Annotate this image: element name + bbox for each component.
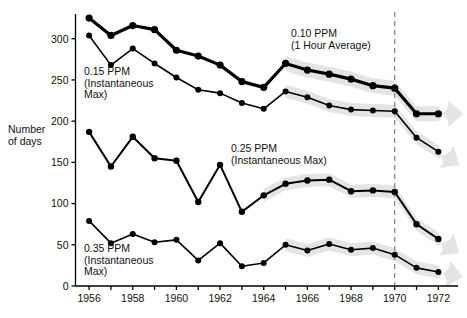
data-point xyxy=(195,257,201,263)
data-point xyxy=(282,181,288,187)
data-point xyxy=(195,199,201,205)
data-point xyxy=(107,32,114,39)
annotation-010ppm-line2: (1 Hour Average) xyxy=(291,39,371,51)
x-tick-label: 1962 xyxy=(208,292,232,304)
data-point xyxy=(414,135,420,141)
data-point xyxy=(413,221,419,227)
annotation-025ppm-line2: (Instantaneous Max) xyxy=(231,154,327,166)
data-point xyxy=(370,107,376,113)
y-axis-title-line2: of days xyxy=(8,135,42,147)
x-tick-label: 1970 xyxy=(383,292,407,304)
data-point xyxy=(392,252,398,258)
data-point xyxy=(217,90,223,96)
data-point xyxy=(239,209,245,215)
annotation-010ppm: 0.10 PPM(1 Hour Average) xyxy=(291,28,371,51)
data-point xyxy=(348,188,354,194)
annotation-025ppm: 0.25 PPM(Instantaneous Max) xyxy=(231,143,327,166)
data-point xyxy=(130,231,136,237)
annotation-015ppm: 0.15 PPM(InstantaneousMax) xyxy=(84,66,153,101)
data-point xyxy=(86,129,92,135)
data-point xyxy=(435,269,441,275)
data-point xyxy=(370,187,376,193)
y-tick-label: 150 xyxy=(51,156,69,168)
x-tick-label: 1966 xyxy=(296,292,320,304)
annotation-035ppm: 0.35 PPM(InstantaneousMax) xyxy=(84,243,153,278)
data-point xyxy=(86,218,92,224)
data-point xyxy=(239,100,245,106)
data-point xyxy=(130,134,136,140)
data-point xyxy=(348,247,354,253)
data-point xyxy=(369,82,376,89)
x-tick-label: 1960 xyxy=(165,292,189,304)
data-point xyxy=(435,236,441,242)
data-point xyxy=(326,241,332,247)
y-tick-label: 300 xyxy=(51,33,69,45)
data-point xyxy=(391,189,397,195)
data-point xyxy=(108,163,114,169)
data-point xyxy=(261,192,267,198)
data-point xyxy=(85,15,92,22)
data-point xyxy=(435,110,442,117)
data-point xyxy=(326,71,333,78)
data-point xyxy=(151,26,158,33)
data-point xyxy=(173,47,180,54)
data-point xyxy=(239,263,245,269)
data-point xyxy=(173,74,179,80)
annotation-015ppm-line1: 0.15 PPM xyxy=(84,65,130,77)
data-point xyxy=(195,87,201,93)
data-point xyxy=(283,242,289,248)
y-axis-title-line1: Number xyxy=(8,123,45,135)
data-point xyxy=(304,177,310,183)
annotation-035ppm-line2: (Instantaneous xyxy=(84,254,153,266)
data-point xyxy=(129,22,136,29)
data-point xyxy=(326,102,332,108)
x-tick-label: 1958 xyxy=(121,292,145,304)
chart-container: 0501001502002503001956195819601962196419… xyxy=(0,0,467,318)
x-tick-label: 1964 xyxy=(252,292,276,304)
y-tick-label: 200 xyxy=(51,115,69,127)
annotation-015ppm-line2: (Instantaneous xyxy=(84,77,153,89)
data-point xyxy=(392,108,398,114)
data-point xyxy=(260,84,267,91)
trend-bands-layer xyxy=(264,56,464,287)
y-tick-label: 250 xyxy=(51,74,69,86)
data-point xyxy=(435,149,441,155)
data-point xyxy=(195,52,202,59)
x-tick-label: 1956 xyxy=(77,292,101,304)
data-point xyxy=(348,107,354,113)
data-point xyxy=(391,85,398,92)
data-point xyxy=(304,94,310,100)
data-point xyxy=(173,237,179,243)
data-point xyxy=(414,265,420,271)
annotation-025ppm-line1: 0.25 PPM xyxy=(231,142,277,154)
data-point xyxy=(238,78,245,85)
data-point xyxy=(304,248,310,254)
y-axis-title: Numberof days xyxy=(8,124,45,147)
y-tick-label: 0 xyxy=(63,280,69,292)
y-tick-label: 100 xyxy=(51,197,69,209)
data-point xyxy=(413,110,420,117)
data-point xyxy=(261,106,267,112)
data-point xyxy=(326,176,332,182)
data-point xyxy=(347,76,354,83)
trend-band xyxy=(286,237,463,286)
data-point xyxy=(173,158,179,164)
data-point xyxy=(282,60,289,67)
data-point xyxy=(216,62,223,69)
annotation-010ppm-line1: 0.10 PPM xyxy=(291,27,337,39)
data-point xyxy=(217,240,223,246)
data-point xyxy=(217,162,223,168)
annotation-015ppm-line3: Max) xyxy=(84,88,107,100)
x-tick-label: 1972 xyxy=(427,292,451,304)
data-point xyxy=(304,66,311,73)
data-point xyxy=(370,245,376,251)
data-point xyxy=(151,155,157,161)
data-point xyxy=(86,32,92,38)
x-tick-label: 1968 xyxy=(339,292,363,304)
y-tick-label: 50 xyxy=(57,239,69,251)
annotation-035ppm-line1: 0.35 PPM xyxy=(84,242,130,254)
data-point xyxy=(283,88,289,94)
data-point xyxy=(261,260,267,266)
annotation-035ppm-line3: Max) xyxy=(84,265,107,277)
data-point xyxy=(130,46,136,52)
